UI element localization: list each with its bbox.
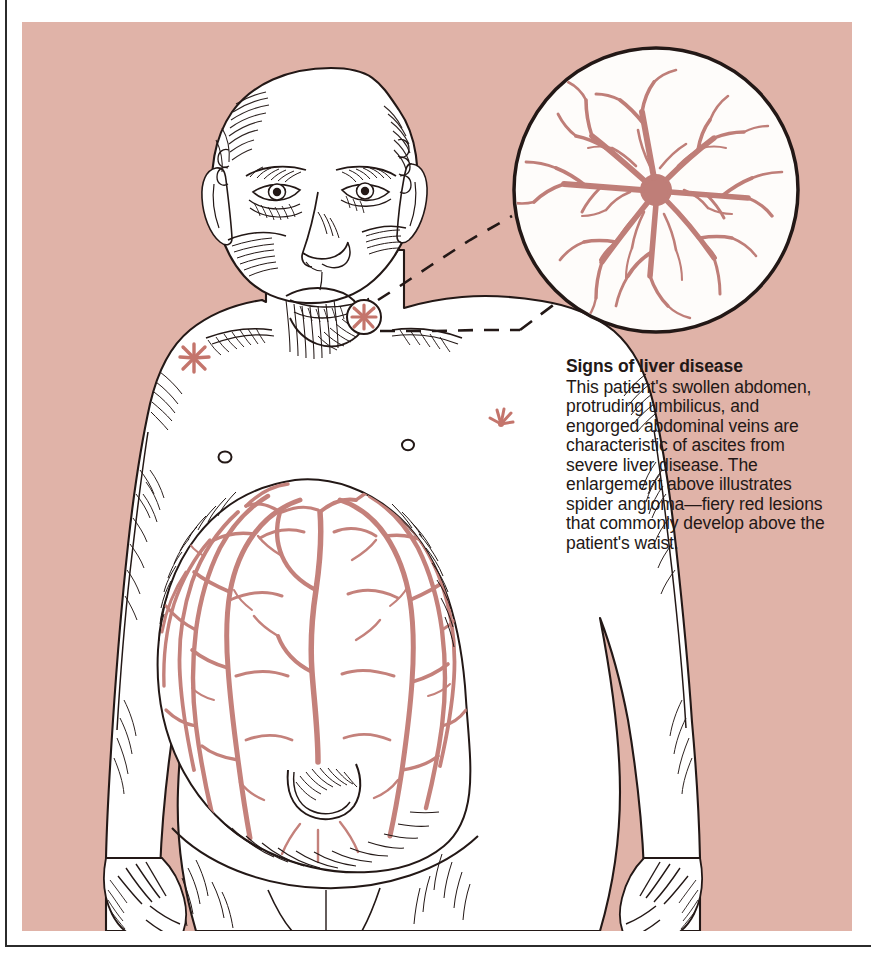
spider-angioma-enlargement <box>510 48 798 332</box>
caption-body: This patient's swollen abdomen, protrudi… <box>566 378 834 554</box>
spider-angioma-neck-circled <box>347 300 381 334</box>
spider-angioma-chest <box>180 344 209 372</box>
head-silhouette <box>212 68 417 303</box>
right-nipple <box>402 440 414 450</box>
caption-title: Signs of liver disease <box>566 357 834 377</box>
caption-block: Signs of liver disease This patient's sw… <box>566 357 834 553</box>
figure-root: Signs of liver disease This patient's sw… <box>0 0 876 959</box>
left-nipple <box>219 452 232 463</box>
